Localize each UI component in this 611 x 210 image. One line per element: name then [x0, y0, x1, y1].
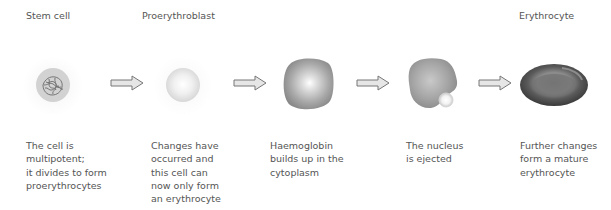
stage-description-haemoglobin: Haemoglobin builds up in the cytoplasm: [270, 139, 344, 179]
stage-description-stem-cell: The cell is multipotent; it divides to f…: [26, 139, 107, 192]
stage-title-stem-cell: Stem cell: [26, 10, 70, 21]
right-arrow-icon: [110, 75, 144, 91]
erythrocyte-icon: [518, 62, 590, 108]
stage-description-erythrocyte: Further changes form a mature erythrocyt…: [520, 139, 597, 179]
stage-title-proerythroblast: Proerythroblast: [142, 10, 215, 21]
stem-cell-icon: [22, 55, 84, 117]
right-arrow-icon: [233, 75, 267, 91]
right-arrow-icon: [356, 75, 390, 91]
stage-description-nucleus-ejected: The nucleus is ejected: [406, 139, 463, 166]
stage-description-proerythroblast: Changes have occurred and this cell can …: [151, 139, 221, 205]
haemoglobin-cell-icon: [278, 54, 338, 114]
nucleus-ejecting-cell-icon: [405, 50, 467, 112]
right-arrow-icon: [478, 75, 512, 91]
proerythroblast-icon: [152, 55, 214, 117]
stage-title-erythrocyte: Erythrocyte: [519, 10, 574, 21]
